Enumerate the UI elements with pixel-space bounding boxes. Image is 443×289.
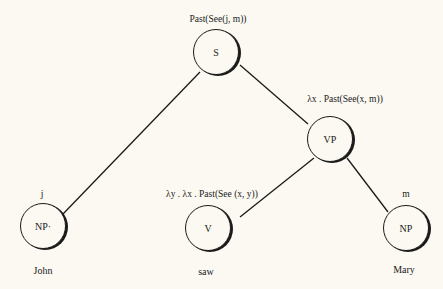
node-np-mary-label: NP xyxy=(400,223,413,234)
edge-s-vp xyxy=(240,65,308,124)
node-np-john-label: NP· xyxy=(35,221,51,232)
word-john: John xyxy=(34,265,53,276)
node-v: V xyxy=(185,205,231,251)
edge-vp-v xyxy=(240,158,314,217)
node-vp-label: VP xyxy=(324,134,337,145)
np2-semantics: m xyxy=(402,189,409,199)
node-vp: VP xyxy=(307,116,353,162)
node-s-label: S xyxy=(213,47,219,58)
node-np-john: NP· xyxy=(20,203,66,249)
v-semantics: λy . λx . Past(See (x, y)) xyxy=(166,189,258,199)
word-mary: Mary xyxy=(393,264,415,275)
np1-semantics: j xyxy=(41,189,44,199)
vp-semantics: λx . Past(See(x, m)) xyxy=(307,94,383,104)
node-s: S xyxy=(193,29,239,75)
node-v-label: V xyxy=(204,223,211,234)
word-saw: saw xyxy=(198,266,214,277)
edge-vp-np xyxy=(347,158,388,212)
node-np-mary: NP xyxy=(383,205,429,251)
s-semantics: Past(See(j, m)) xyxy=(190,14,247,24)
